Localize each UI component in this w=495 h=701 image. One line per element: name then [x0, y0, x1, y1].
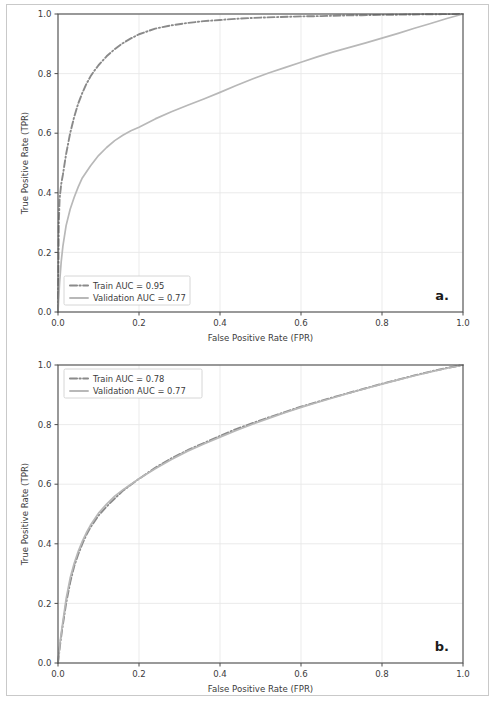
roc-curve-validation [58, 365, 463, 663]
y-tick-label: 1.0 [38, 9, 52, 19]
x-tick-label: 0.6 [294, 669, 308, 679]
roc-chart-a: 0.00.20.40.60.81.00.00.20.40.60.81.0Fals… [0, 0, 495, 350]
roc-curve-train [58, 14, 463, 312]
x-tick-label: 0.8 [375, 669, 389, 679]
x-tick-label: 0.2 [132, 669, 146, 679]
y-tick-label: 0.2 [38, 599, 52, 609]
y-tick-label: 0.8 [38, 420, 52, 430]
y-tick-label: 0.0 [38, 658, 52, 668]
x-tick-label: 1.0 [456, 669, 470, 679]
x-tick-label: 1.0 [456, 318, 470, 328]
x-tick-label: 0.2 [132, 318, 146, 328]
y-tick-label: 0.6 [38, 479, 52, 489]
legend-label-validation: Validation AUC = 0.77 [93, 386, 186, 396]
legend-label-validation: Validation AUC = 0.77 [93, 293, 186, 303]
plot-axes-box [58, 365, 463, 663]
legend-label-train: Train AUC = 0.78 [92, 374, 164, 384]
y-axis-label: True Positive Rate (TPR) [20, 112, 30, 215]
x-tick-label: 0.0 [51, 318, 65, 328]
y-tick-label: 0.2 [38, 248, 52, 258]
y-tick-label: 0.4 [38, 188, 52, 198]
roc-curve-train [58, 365, 463, 663]
panel-tag: b. [435, 639, 449, 654]
y-tick-label: 0.6 [38, 128, 52, 138]
roc-panel-b: 0.00.20.40.60.81.00.00.20.40.60.81.0Fals… [0, 340, 495, 701]
x-tick-label: 0.6 [294, 318, 308, 328]
legend-label-train: Train AUC = 0.95 [92, 281, 164, 291]
y-tick-label: 0.0 [38, 307, 52, 317]
y-tick-label: 0.4 [38, 539, 52, 549]
figure-root: 0.00.20.40.60.81.00.00.20.40.60.81.0Fals… [0, 0, 495, 701]
panel-tag: a. [435, 288, 449, 303]
x-tick-label: 0.0 [51, 669, 65, 679]
roc-curve-validation [58, 14, 463, 312]
plot-axes-box [58, 14, 463, 312]
y-tick-label: 0.8 [38, 69, 52, 79]
x-tick-label: 0.4 [213, 669, 227, 679]
y-tick-label: 1.0 [38, 360, 52, 370]
x-tick-label: 0.8 [375, 318, 389, 328]
roc-panel-a: 0.00.20.40.60.81.00.00.20.40.60.81.0Fals… [0, 0, 495, 350]
roc-chart-b: 0.00.20.40.60.81.00.00.20.40.60.81.0Fals… [0, 340, 495, 701]
x-tick-label: 0.4 [213, 318, 227, 328]
y-axis-label: True Positive Rate (TPR) [20, 463, 30, 566]
x-axis-label: False Positive Rate (FPR) [208, 684, 313, 694]
